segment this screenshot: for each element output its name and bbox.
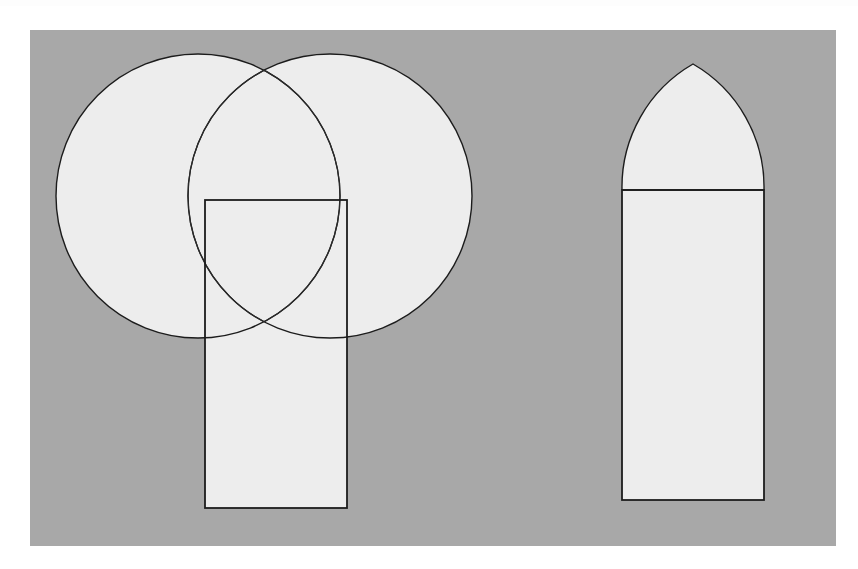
diagram-page (0, 0, 858, 569)
page-top-margin-strip (0, 0, 858, 6)
figure-plate-background (30, 30, 836, 546)
